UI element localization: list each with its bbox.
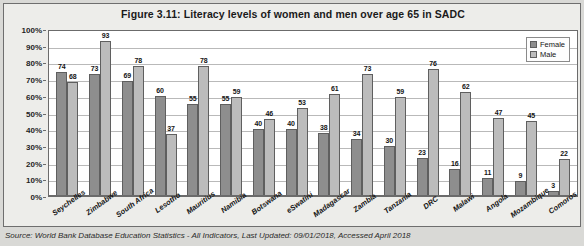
bar-value-label: 46 [265,110,273,117]
bar-group: 2376 [411,31,444,196]
bar-male[interactable]: 76 [428,69,439,196]
bar-value-label: 73 [364,65,372,72]
bar-value-label: 62 [462,83,470,90]
x-axis-label-slot: Mauritius [182,198,215,232]
y-axis-tick-label: 60% [26,92,42,101]
x-axis-label-slot: eSwatini [280,198,313,232]
bar-group: 3059 [379,31,412,196]
legend-swatch-male-icon [530,51,537,58]
x-axis-label-slot: Madagascar [313,198,346,232]
bar-male[interactable]: 59 [231,97,242,196]
bar-female[interactable]: 34 [351,139,362,196]
bar-female[interactable]: 40 [253,129,264,196]
x-axis-label-slot: DRC [412,198,445,232]
bar-value-label: 59 [396,88,404,95]
bar-value-label: 37 [167,125,175,132]
y-axis-tick-mark [43,80,46,81]
bar-female[interactable]: 23 [417,158,428,196]
bar-female[interactable]: 38 [318,133,329,196]
bar-value-label: 55 [222,95,230,102]
bar-value-label: 78 [134,57,142,64]
bar-value-label: 73 [91,65,99,72]
bar-value-label: 34 [353,130,361,137]
x-axis-label-slot: Malawi [445,198,478,232]
x-axis-label-slot: Angola [477,198,510,232]
x-axis-labels: SeychellesZimbabweSouth AfricaLesothoMau… [48,198,578,232]
bar-group: 4046 [248,31,281,196]
bar-value-label: 60 [156,87,164,94]
bar-male[interactable]: 47 [493,118,504,196]
bar-value-label: 76 [429,60,437,67]
y-axis-tick-mark [43,30,46,31]
bar-male[interactable]: 78 [133,66,144,196]
y-axis-tick-mark [43,97,46,98]
legend-swatch-female-icon [530,41,537,48]
bar-female[interactable]: 40 [286,129,297,196]
bar-male[interactable]: 61 [329,94,340,196]
bar-value-label: 22 [560,150,568,157]
bar-value-label: 45 [527,112,535,119]
bar-group: 3861 [313,31,346,196]
bar-value-label: 47 [495,109,503,116]
x-axis-label-slot: Comoros [543,198,576,232]
bar-male[interactable]: 93 [100,41,111,196]
x-axis-label-slot: Zambia [346,198,379,232]
bar-female[interactable]: 55 [220,104,231,196]
bar-male[interactable]: 46 [264,119,275,196]
bar-group: 4053 [280,31,313,196]
bar-groups: 7468739369786037557855594046405338613473… [49,31,577,196]
bar-male[interactable]: 68 [67,82,78,196]
bar-group: 7468 [51,31,84,196]
bar-female[interactable]: 55 [187,104,198,196]
bar-group: 5559 [215,31,248,196]
bar-female[interactable]: 11 [482,178,493,196]
y-axis-tick-mark [43,197,46,198]
x-axis-label-slot: South Africa [116,198,149,232]
bar-female[interactable]: 69 [122,81,133,196]
plot-wrap: 7468739369786037557855594046405338613473… [48,30,578,197]
y-axis-tick-label: 90% [26,42,42,51]
legend-item-female[interactable]: Female [530,40,565,49]
bar-male[interactable]: 78 [198,66,209,196]
bar-value-label: 9 [518,172,522,179]
y-axis-tick-mark [43,47,46,48]
y-axis-tick-label: 100% [22,26,42,35]
bar-value-label: 59 [233,88,241,95]
bar-value-label: 16 [451,160,459,167]
bar-male[interactable]: 73 [362,74,373,196]
x-axis-label-slot: Botswana [247,198,280,232]
bar-value-label: 11 [484,169,491,176]
bar-female[interactable]: 30 [384,146,395,196]
bar-female[interactable]: 16 [449,169,460,196]
y-axis-tick-label: 80% [26,59,42,68]
bar-female[interactable]: 74 [56,72,67,196]
bar-male[interactable]: 22 [559,159,570,196]
y-axis-tick-mark [43,114,46,115]
figure-container: Figure 3.11: Literacy levels of women an… [0,0,584,246]
source-note: Source: World Bank Database Education St… [5,231,411,240]
bar-male[interactable]: 59 [395,97,406,196]
chart-legend[interactable]: Female Male [526,37,570,62]
bar-male[interactable]: 45 [526,121,537,196]
bar-value-label: 3 [551,182,555,189]
legend-item-male[interactable]: Male [530,50,565,59]
bar-group: 6037 [149,31,182,196]
bar-value-label: 23 [418,149,426,156]
bar-female[interactable]: 60 [155,96,166,196]
bar-value-label: 61 [331,85,339,92]
y-axis-tick-mark [43,130,46,131]
bar-value-label: 93 [102,32,110,39]
bar-group: 5578 [182,31,215,196]
bar-group: 1662 [444,31,477,196]
bar-male[interactable]: 37 [166,134,177,196]
figure-frame: Figure 3.11: Literacy levels of women an… [3,3,581,227]
bar-male[interactable]: 53 [297,108,308,197]
bar-female[interactable]: 9 [515,181,526,196]
bar-male[interactable]: 62 [460,92,471,196]
chart-title: Figure 3.11: Literacy levels of women an… [4,8,582,20]
x-axis-label-slot: Zimbabwe [83,198,116,232]
y-axis-tick-mark [43,147,46,148]
bar-female[interactable]: 73 [89,74,100,196]
y-axis-tick-mark [43,63,46,64]
y-axis-tick-label: 0% [30,193,42,202]
